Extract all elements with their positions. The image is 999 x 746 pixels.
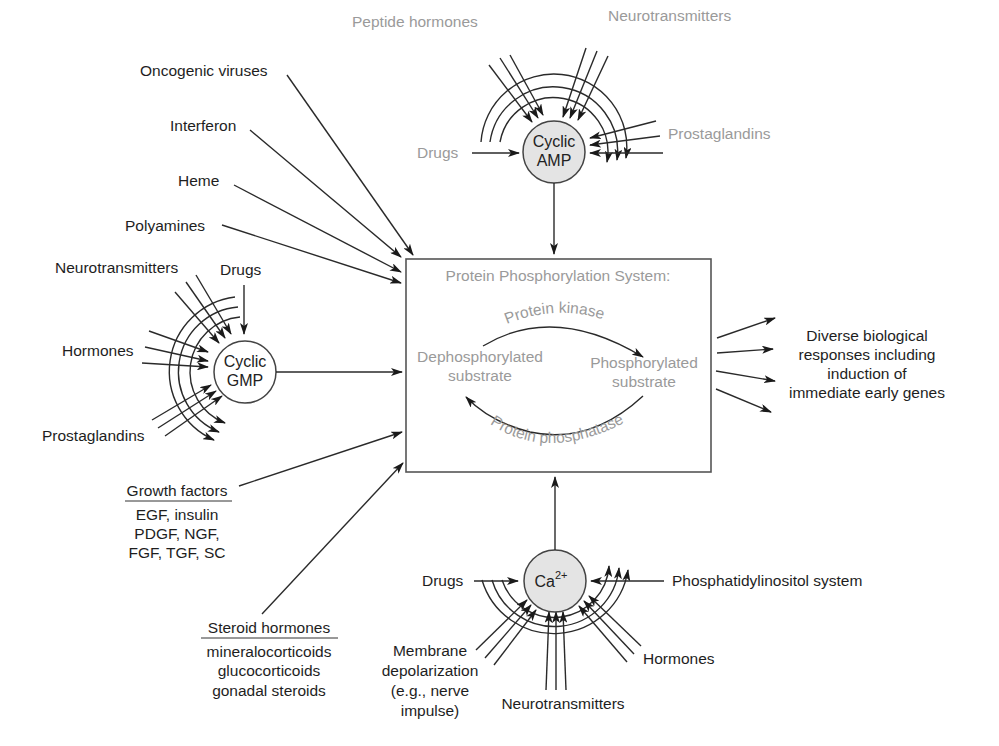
interferon-label: Interferon <box>170 117 236 134</box>
ca-hormones-label: Hormones <box>643 650 715 667</box>
output-label-line1: Diverse biological <box>806 327 927 344</box>
cgmp-hormones-label: Hormones <box>62 342 134 359</box>
output-arrow-4 <box>716 389 771 412</box>
output-arrow-3 <box>716 371 775 381</box>
cgmp-neurotransmitters-label: Neurotransmitters <box>55 259 178 276</box>
interferon-arrow <box>250 130 401 257</box>
cgmp-hormone-arrow-3 <box>142 363 208 367</box>
ca-hormone-arrow-3 <box>589 596 641 646</box>
camp-prostaglandin-arrow-2 <box>590 136 660 145</box>
calcium-node <box>524 550 586 612</box>
outputs-group: Diverse biological responses including i… <box>716 318 945 412</box>
depolarization-label-line3: (e.g., nerve <box>391 682 469 699</box>
calcium-group: Ca2+ Drugs Phosphatidylinositol system H… <box>382 477 863 719</box>
steroid-hormones-arrow <box>262 463 403 614</box>
depolarization-arrow-3 <box>494 610 536 665</box>
oncogenic-viruses-arrow <box>287 75 413 255</box>
output-arrow-1 <box>717 318 775 338</box>
cgmp-drugs-label: Drugs <box>220 261 262 278</box>
heme-arrow <box>234 185 401 272</box>
phosphorylated-label-line1: Phosphorylated <box>590 354 698 371</box>
signal-transduction-diagram: Protein Phosphorylation System: Dephosph… <box>0 0 999 746</box>
dephosphorylated-label-line2: substrate <box>448 367 512 384</box>
growth-factor-item-3: FGF, TGF, SC <box>128 544 225 561</box>
output-label-line3: induction of <box>827 365 907 382</box>
output-arrow-2 <box>717 349 773 353</box>
depolarization-label-line4: impulse) <box>401 702 460 719</box>
growth-factor-item-1: EGF, insulin <box>136 506 219 523</box>
ca-neurotransmitters-label: Neurotransmitters <box>501 695 624 712</box>
heme-label: Heme <box>178 172 219 189</box>
camp-prostaglandins-label: Prostaglandins <box>668 125 771 142</box>
cgmp-prostaglandins-label: Prostaglandins <box>42 427 145 444</box>
ca-neurotransmitter-arrow-3 <box>563 612 566 690</box>
polyamines-label: Polyamines <box>125 217 205 234</box>
camp-drugs-label: Drugs <box>417 144 459 161</box>
depolarization-label-line1: Membrane <box>393 642 467 659</box>
growth-factor-item-2: PDGF, NGF, <box>134 525 219 542</box>
ca-neurotransmitter-arrow-1 <box>546 612 549 690</box>
ca-drugs-label: Drugs <box>422 572 464 589</box>
phosphorylated-label-line2: substrate <box>612 373 676 390</box>
depolarization-arrow-2 <box>485 605 531 658</box>
steroid-item-2: glucocorticoids <box>218 662 321 679</box>
cyclic-gmp-label-line1: Cyclic <box>224 353 267 370</box>
dephosphorylated-label-line1: Dephosphorylated <box>417 348 543 365</box>
depolarization-label-line2: depolarization <box>382 662 479 679</box>
central-box-title: Protein Phosphorylation System: <box>446 267 671 284</box>
oncogenic-viruses-label: Oncogenic viruses <box>140 62 268 79</box>
cgmp-neurotransmitter-arrow-1 <box>175 292 219 343</box>
camp-neurotransmitters-label: Neurotransmitters <box>608 7 731 24</box>
steroid-item-1: mineralocorticoids <box>207 643 332 660</box>
protein-phosphorylation-system-box: Protein Phosphorylation System: Dephosph… <box>406 259 711 472</box>
peptide-hormones-label: Peptide hormones <box>352 13 478 30</box>
growth-factors-heading: Growth factors <box>127 482 228 499</box>
steroid-item-3: gonadal steroids <box>212 682 326 699</box>
steroid-hormones-heading: Steroid hormones <box>208 619 331 636</box>
cyclic-amp-label-line1: Cyclic <box>533 133 576 150</box>
cyclic-amp-group: Cyclic AMP Peptide hormones Neurotransmi… <box>352 7 771 254</box>
growth-factors-arrow <box>239 432 402 486</box>
phosphatidylinositol-label: Phosphatidylinositol system <box>672 572 862 589</box>
cyclic-gmp-label-line2: GMP <box>227 372 263 389</box>
output-label-line2: responses including <box>798 346 935 363</box>
output-label-line4: immediate early genes <box>789 384 945 401</box>
cgmp-prostaglandin-arrow-2 <box>158 391 216 428</box>
cyclic-gmp-group: Cyclic GMP Neurotransmitters Drugs Hormo… <box>42 259 402 444</box>
cyclic-amp-label-line2: AMP <box>537 152 572 169</box>
